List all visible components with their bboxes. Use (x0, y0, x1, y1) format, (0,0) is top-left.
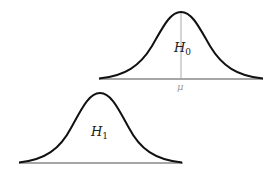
h0-distribution: H0 μ (99, 12, 263, 92)
mean-label: μ (177, 81, 184, 92)
hypothesis-diagram: H0 μ H1 (0, 0, 274, 176)
h1-distribution: H1 (19, 93, 183, 163)
h0-label: H0 (173, 40, 191, 57)
h1-label: H1 (90, 124, 108, 141)
